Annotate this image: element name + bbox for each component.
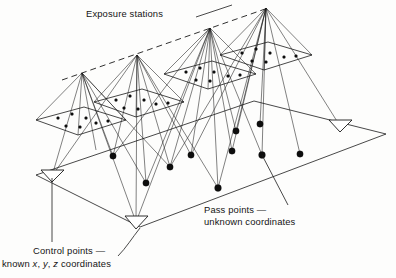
pass-point <box>143 180 149 186</box>
pass-points-group <box>110 121 303 192</box>
image-plane-station-4 <box>220 42 312 70</box>
control-point-marker <box>329 120 352 132</box>
figure-canvas: Exposure stations Pass points — unknown … <box>0 0 396 278</box>
image-plane-points <box>57 48 298 129</box>
control-points-curve-leader <box>118 228 140 256</box>
control-point-marker <box>41 170 64 182</box>
pass-points-label-line1: Pass points — <box>204 204 267 215</box>
control-point-marker <box>125 216 148 229</box>
ray-bundle-station-1 <box>36 73 170 222</box>
pass-points-label-line2: unknown coordinates <box>204 216 296 227</box>
control-points-coordinates-word: coordinates <box>58 258 111 269</box>
exposure-stations-label: Exposure stations <box>86 8 163 19</box>
exposure-stations-leader <box>196 5 232 17</box>
control-points-label-line2: known x, y, z coordinates <box>2 258 111 269</box>
aerial-triangulation-diagram: Exposure stations Pass points — unknown … <box>0 0 396 278</box>
pass-point <box>257 121 263 127</box>
image-plane-station-1 <box>36 107 126 135</box>
pass-point <box>110 153 116 159</box>
ray-bundle-station-2 <box>52 55 218 222</box>
pass-point <box>215 185 222 192</box>
pass-point <box>167 164 173 170</box>
pass-point <box>233 128 239 134</box>
image-plane-station-3 <box>164 61 256 89</box>
control-points-known-word: known <box>2 258 33 269</box>
control-points-label-line1: Control points — <box>33 245 106 256</box>
control-points-group <box>41 120 352 229</box>
pass-point <box>188 152 194 158</box>
pass-point <box>297 151 303 157</box>
pass-points-leader <box>262 155 288 205</box>
image-plane-station-2 <box>94 89 184 117</box>
pass-point <box>229 148 235 154</box>
